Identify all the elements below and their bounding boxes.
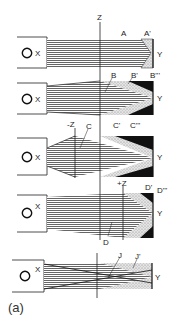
label-b: B	[111, 71, 116, 80]
label-c: C	[86, 122, 92, 131]
handle-label: X	[35, 265, 41, 274]
label-c-triple-prime: C'''	[130, 121, 141, 130]
panel-3: X -Z C C' C''' Y	[17, 118, 163, 180]
end-label: Y	[157, 94, 163, 103]
handle-label: X	[35, 49, 41, 58]
panel-1: X Z A A' Y	[17, 13, 163, 72]
label-j: J	[118, 251, 122, 260]
label-a-prime: A'	[144, 29, 151, 38]
label-c-prime: C'	[113, 121, 121, 130]
label-b-triple-prime: B'''	[150, 71, 160, 80]
end-label: Y	[157, 50, 163, 59]
label-d-triple-prime: D'''	[157, 186, 168, 195]
figure-caption: (a)	[8, 300, 24, 315]
label-d: D	[103, 238, 109, 247]
handle-label: X	[35, 153, 41, 162]
knob-icon	[22, 48, 31, 57]
panel-4: X +Z D' D''' D Y	[17, 179, 168, 247]
axis-label: +Z	[117, 179, 127, 188]
handle-label: X	[35, 202, 41, 211]
label-b-prime: B'	[131, 71, 138, 80]
knob-icon	[22, 208, 31, 217]
end-label: Y	[157, 153, 163, 162]
label-j-prime: J'	[135, 252, 141, 261]
knob-icon	[22, 152, 31, 161]
knob-icon	[22, 94, 31, 103]
end-label: Y	[155, 273, 161, 282]
fiber-bundle	[47, 39, 151, 68]
bundle-diagram: X Z A A' Y X B B' B''' Y X	[0, 0, 178, 331]
axis-label: -Z	[67, 120, 75, 129]
knob-icon	[20, 271, 29, 280]
label-d-prime: D'	[145, 183, 153, 192]
end-label: Y	[157, 209, 163, 218]
label-a: A	[121, 29, 127, 38]
panel-2: X B B' B''' Y	[17, 71, 163, 118]
axis-label: Z	[97, 13, 102, 22]
panel-5: X J J' Y	[12, 251, 161, 298]
handle-label: X	[35, 95, 41, 104]
